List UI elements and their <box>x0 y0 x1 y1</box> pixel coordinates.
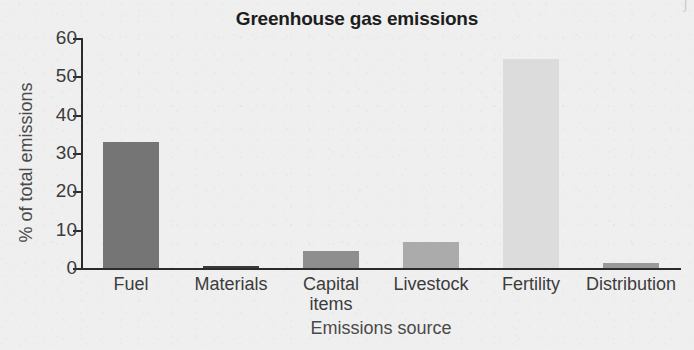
category-label-fuel: Fuel <box>81 274 181 294</box>
bar-fertility <box>503 59 559 268</box>
y-tick-label: 50 <box>56 65 77 87</box>
bar-fuel <box>103 142 159 269</box>
category-label-materials: Materials <box>181 274 281 294</box>
y-tick-label: 40 <box>56 103 77 125</box>
category-label-livestock: Livestock <box>381 274 481 294</box>
category-label-capital-items: Capitalitems <box>281 274 381 314</box>
x-axis-line <box>81 268 681 270</box>
y-tick-label: 0 <box>66 257 77 279</box>
bar-distribution <box>603 263 659 268</box>
category-label-distribution: Distribution <box>581 274 681 294</box>
category-label-fertility: Fertility <box>481 274 581 294</box>
figure-canvas: ʃ Greenhouse gas emissions % of total em… <box>0 0 694 350</box>
y-tick-label: 30 <box>56 142 77 164</box>
plot-area: 0102030405060 FuelMaterialsCapitalitemsL… <box>81 38 681 268</box>
y-tick-label: 20 <box>56 180 77 202</box>
chart-title: Greenhouse gas emissions <box>0 8 694 30</box>
y-tick-label: 10 <box>56 218 77 240</box>
y-tick-label: 60 <box>56 27 77 49</box>
bar-livestock <box>403 242 459 268</box>
bar-capital-items <box>303 251 359 268</box>
x-axis-title: Emissions source <box>81 318 681 339</box>
y-axis-line <box>81 38 83 268</box>
y-axis-title: % of total emissions <box>16 63 37 263</box>
bar-materials <box>203 266 259 268</box>
